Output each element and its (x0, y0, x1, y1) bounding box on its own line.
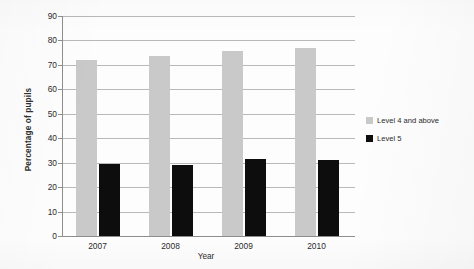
bar-2007-level-5 (99, 164, 120, 236)
gridline (63, 236, 355, 237)
bar-2009-level-4-and-above (222, 51, 243, 236)
chart-legend: Level 4 and aboveLevel 5 (366, 113, 472, 149)
bar-2008-level-4-and-above (149, 56, 170, 236)
bar-2008-level-5 (172, 165, 193, 236)
y-tick-label: 40 (31, 133, 57, 143)
y-tick-label: 70 (31, 60, 57, 70)
legend-label: Level 5 (377, 134, 402, 143)
x-tick-label-2007: 2007 (68, 241, 128, 251)
bar-chart-figure: Percentage of pupils 9080706050403020100… (0, 0, 474, 269)
x-tick-label-2008: 2008 (141, 241, 201, 251)
y-tick-label: 10 (31, 207, 57, 217)
legend-swatch-icon (366, 117, 373, 124)
legend-item: Level 5 (366, 131, 472, 145)
x-tick-label-2009: 2009 (214, 241, 274, 251)
y-tick-label: 90 (31, 11, 57, 21)
plot-area (63, 16, 355, 236)
legend-item: Level 4 and above (366, 113, 472, 127)
legend-label: Level 4 and above (377, 116, 439, 125)
y-tick-label: 30 (31, 158, 57, 168)
x-tick-label-2010: 2010 (287, 241, 347, 251)
y-tick-label: 80 (31, 35, 57, 45)
bar-2010-level-4-and-above (295, 48, 316, 236)
y-tick-label: 20 (31, 182, 57, 192)
legend-swatch-icon (366, 135, 373, 142)
bar-2007-level-4-and-above (76, 60, 97, 236)
bar-2010-level-5 (318, 160, 339, 236)
bar-2009-level-5 (245, 159, 266, 236)
x-axis-title: Year (176, 252, 236, 261)
y-tick-label: 0 (31, 231, 57, 241)
y-tick-label: 60 (31, 84, 57, 94)
y-tick-mark (58, 236, 63, 237)
y-tick-label: 50 (31, 109, 57, 119)
